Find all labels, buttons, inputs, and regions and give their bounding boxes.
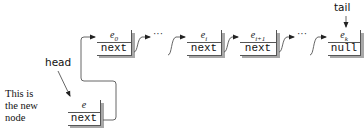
caption-line-1: This is xyxy=(5,88,38,100)
node-pointer-field: next xyxy=(97,42,131,54)
node-pointer-field: null xyxy=(328,42,360,54)
node-pointer-field: next xyxy=(68,112,100,124)
caption-line-2: the new xyxy=(5,100,38,112)
head-label: head xyxy=(45,56,71,68)
ellipsis-2: ··· xyxy=(297,28,307,39)
node-element: ei+1 xyxy=(240,29,276,43)
caption-line-3: node xyxy=(5,112,38,124)
new-node-caption: This is the new node xyxy=(5,88,38,124)
linked-list-diagram: e0 next ei next ei+1 next ek null e next… xyxy=(0,0,364,134)
node-pointer-field: next xyxy=(187,42,221,54)
node-element: e0 xyxy=(97,29,131,43)
node-element: ei xyxy=(187,29,221,43)
node-pointer-field: next xyxy=(240,42,276,54)
ellipsis-1: ··· xyxy=(153,28,163,39)
node-element: e xyxy=(68,99,100,110)
node-element: ek xyxy=(328,29,360,43)
tail-label: tail xyxy=(334,1,350,13)
